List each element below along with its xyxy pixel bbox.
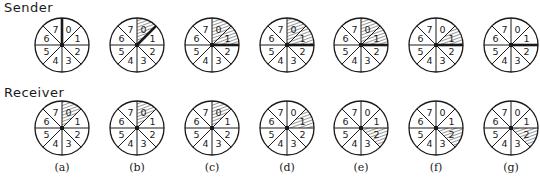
- sector-number: 3: [65, 55, 71, 66]
- sector-number: 4: [502, 55, 508, 66]
- sector-number: 7: [502, 24, 508, 35]
- sector-number: 5: [493, 46, 499, 57]
- sector-number: 1: [224, 33, 230, 44]
- sector-number: 3: [364, 55, 370, 66]
- receiver-wheel: 01234567: [110, 101, 164, 155]
- sector-number: 5: [269, 46, 275, 57]
- sector-number: 5: [343, 129, 349, 140]
- sector-number: 4: [128, 55, 134, 66]
- hub-dot: [135, 43, 139, 47]
- sector-number: 2: [74, 129, 80, 140]
- column-label: (c): [205, 161, 220, 174]
- sector-number: 2: [448, 129, 454, 140]
- sector-number: 1: [74, 116, 80, 127]
- sector-number: 1: [373, 33, 379, 44]
- sector-number: 4: [502, 138, 508, 149]
- sector-number: 4: [427, 55, 433, 66]
- sector-number: 3: [215, 138, 221, 149]
- sender-wheel: 01234567: [35, 18, 89, 72]
- sector-number: 3: [290, 55, 296, 66]
- sector-number: 6: [269, 116, 275, 127]
- receiver-wheel: 01234567: [185, 101, 239, 155]
- sector-number: 7: [53, 107, 59, 118]
- sender-wheel: 01234567: [409, 18, 463, 72]
- sector-number: 6: [493, 33, 499, 44]
- sector-number: 4: [352, 138, 358, 149]
- sector-number: 1: [448, 33, 454, 44]
- sector-number: 3: [439, 138, 445, 149]
- sector-number: 0: [215, 107, 221, 118]
- sector-number: 0: [364, 107, 370, 118]
- hub-dot: [434, 126, 438, 130]
- sliding-window-diagram: 0123456701234567012345670123456701234567…: [0, 0, 540, 178]
- sector-number: 6: [493, 116, 499, 127]
- sector-number: 4: [278, 55, 284, 66]
- sector-number: 6: [343, 116, 349, 127]
- hub-dot: [359, 43, 363, 47]
- sector-number: 6: [418, 33, 424, 44]
- sector-number: 7: [203, 107, 209, 118]
- sector-number: 7: [203, 24, 209, 35]
- sector-number: 7: [352, 107, 358, 118]
- hub-dot: [434, 43, 438, 47]
- column-label: (e): [353, 161, 368, 174]
- receiver-wheel: 01234567: [484, 101, 538, 155]
- sector-number: 2: [149, 129, 155, 140]
- sector-number: 2: [299, 129, 305, 140]
- sender-wheel: 01234567: [260, 18, 314, 72]
- sector-number: 0: [514, 24, 520, 35]
- receiver-wheel: 01234567: [260, 101, 314, 155]
- sector-number: 3: [364, 138, 370, 149]
- sector-number: 7: [352, 24, 358, 35]
- sector-number: 3: [290, 138, 296, 149]
- sector-number: 7: [502, 107, 508, 118]
- sector-number: 4: [203, 138, 209, 149]
- sector-number: 0: [140, 24, 146, 35]
- sender-wheel: 01234567: [334, 18, 388, 72]
- sector-number: 1: [224, 116, 230, 127]
- sector-number: 4: [427, 138, 433, 149]
- sector-number: 0: [290, 24, 296, 35]
- sector-number: 1: [149, 33, 155, 44]
- sector-number: 1: [299, 116, 305, 127]
- sector-number: 1: [448, 116, 454, 127]
- hub-dot: [210, 43, 214, 47]
- sector-number: 2: [523, 129, 529, 140]
- column-label: (f): [430, 161, 443, 174]
- sector-number: 4: [278, 138, 284, 149]
- sector-number: 5: [44, 129, 50, 140]
- sector-number: 1: [74, 33, 80, 44]
- sector-number: 7: [427, 24, 433, 35]
- sector-number: 5: [194, 46, 200, 57]
- sector-number: 5: [119, 129, 125, 140]
- sector-number: 1: [299, 33, 305, 44]
- sector-number: 3: [140, 138, 146, 149]
- sector-number: 3: [514, 55, 520, 66]
- column-label: (a): [54, 161, 69, 174]
- hub-dot: [210, 126, 214, 130]
- sector-number: 3: [215, 55, 221, 66]
- sector-number: 5: [343, 46, 349, 57]
- sender-wheel: 01234567: [484, 18, 538, 72]
- sector-number: 4: [53, 138, 59, 149]
- sector-number: 0: [65, 24, 71, 35]
- sector-number: 7: [128, 107, 134, 118]
- sector-number: 2: [224, 129, 230, 140]
- sector-number: 6: [119, 116, 125, 127]
- sector-number: 1: [149, 116, 155, 127]
- sector-number: 7: [128, 24, 134, 35]
- hub-dot: [60, 43, 64, 47]
- sector-number: 0: [215, 24, 221, 35]
- sector-number: 6: [269, 33, 275, 44]
- sector-number: 4: [203, 55, 209, 66]
- hub-dot: [60, 126, 64, 130]
- column-label: (b): [129, 161, 145, 174]
- sector-number: 2: [149, 46, 155, 57]
- sector-number: 0: [439, 24, 445, 35]
- sector-number: 7: [53, 24, 59, 35]
- sector-number: 3: [65, 138, 71, 149]
- hub-dot: [285, 126, 289, 130]
- sector-number: 0: [290, 107, 296, 118]
- sector-number: 2: [448, 46, 454, 57]
- sector-number: 6: [44, 116, 50, 127]
